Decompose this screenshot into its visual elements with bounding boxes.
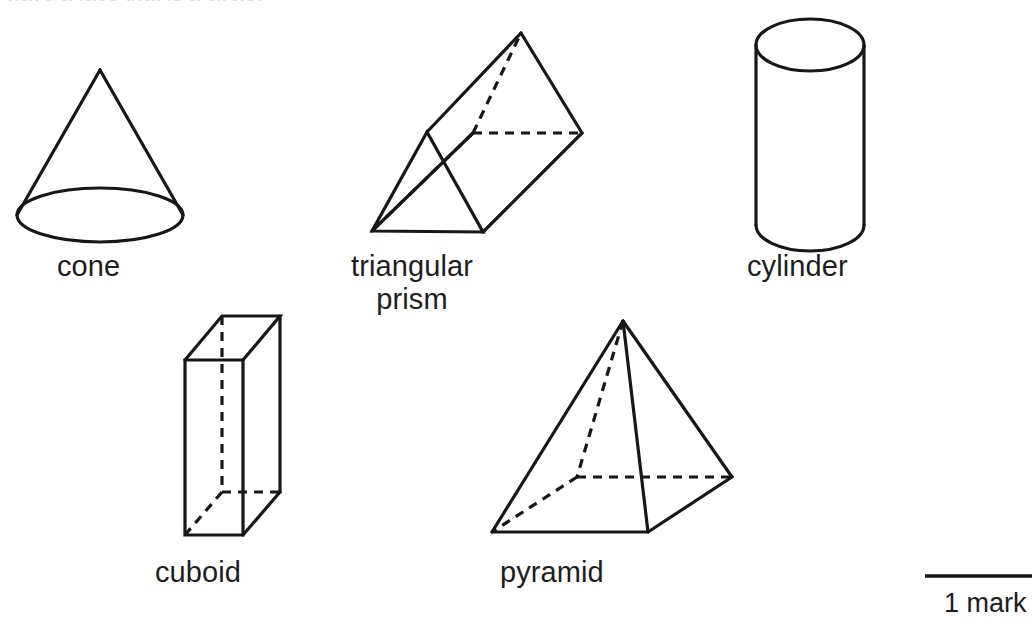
cylinder-top-circle: [756, 19, 864, 71]
pyramid-hidden-back-left-base-edge: [492, 477, 577, 532]
shape-cuboid: [185, 316, 280, 535]
shape-label-cuboid: cuboid: [155, 556, 241, 589]
shape-label-cone: cone: [57, 250, 120, 283]
pyramid-hidden-back-lateral-edge: [577, 321, 623, 477]
shape-pyramid: [492, 321, 732, 532]
cuboid-bottom-right-edge: [243, 492, 280, 535]
prism-back-right-edge: [521, 33, 582, 133]
cone-right-slant: [100, 70, 183, 215]
cone-base-circle: [17, 188, 183, 242]
pyramid-left-lateral-edge: [492, 321, 623, 532]
prism-right-long-edge: [483, 133, 582, 232]
shape-label-triangular-prism-line2: prism: [338, 283, 486, 316]
shape-cylinder: [756, 19, 864, 251]
pyramid-front-base-edges: [492, 477, 732, 532]
shape-label-cylinder: cylinder: [747, 250, 848, 283]
cuboid-top-face: [185, 316, 280, 360]
prism-hidden-back-left-edge: [473, 33, 521, 133]
shape-label-triangular-prism-line1: triangular: [338, 250, 486, 283]
worksheet-page: have a face that is a circle.: [0, 0, 1032, 639]
shape-diagram-layer: [0, 0, 1032, 639]
prism-hidden-diagonal: [372, 133, 473, 231]
cuboid-front-face: [185, 360, 243, 535]
prism-top-left-edge: [427, 33, 521, 132]
cone-left-slant: [17, 70, 100, 215]
shape-label-pyramid: pyramid: [500, 556, 604, 589]
cylinder-bottom-arc: [756, 225, 864, 251]
mark-allocation-label: 1 mark: [944, 588, 1027, 619]
cuboid-hidden-bottom-left-edge: [185, 492, 222, 535]
shape-cone: [17, 70, 183, 242]
shape-triangular-prism: [372, 33, 582, 232]
